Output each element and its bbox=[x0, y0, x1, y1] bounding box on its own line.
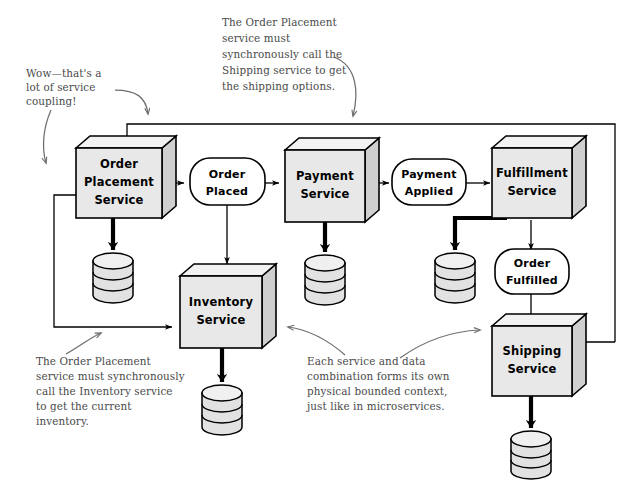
database-order-placement-database[interactable] bbox=[93, 253, 133, 303]
service-label-line2: Service bbox=[196, 313, 245, 327]
service-label-line3: Service bbox=[94, 193, 143, 207]
shipping-note-line-3: synchronously call the bbox=[222, 48, 342, 60]
bounded-context-note-line-1: Each service and data bbox=[307, 355, 426, 367]
write-arrow-fulfillment-db bbox=[455, 218, 507, 250]
service-label-line1: Order bbox=[100, 157, 138, 171]
service-box-inventory-service[interactable]: Inventory Service bbox=[180, 264, 276, 348]
inventory-note-line-1: The Order Placement bbox=[36, 355, 152, 367]
event-node-payment-applied[interactable]: Payment Applied bbox=[392, 159, 466, 205]
database-fulfillment-database[interactable] bbox=[435, 253, 475, 303]
database-shipping-database[interactable] bbox=[511, 431, 551, 479]
event-label-line2: Placed bbox=[206, 185, 248, 198]
service-box-shipping-service[interactable]: Shipping Service bbox=[492, 314, 586, 396]
coupling-note-line-2: lot of service bbox=[26, 81, 95, 93]
coupling-note-arrow-secondary bbox=[115, 90, 148, 114]
event-label-line2: Applied bbox=[405, 185, 454, 198]
shipping-sync-note: The Order Placement service must synchro… bbox=[222, 16, 347, 92]
inventory-note-line-3: call the Inventory service bbox=[36, 385, 173, 397]
inventory-note-arrow bbox=[66, 333, 101, 354]
service-box-order-placement-service[interactable]: Order Placement Service bbox=[76, 136, 176, 218]
service-label-line1: Payment bbox=[296, 169, 354, 183]
coupling-note-arrow bbox=[44, 110, 51, 163]
event-label-line1: Order bbox=[209, 168, 246, 181]
shipping-note-line-1: The Order Placement bbox=[222, 16, 338, 28]
service-label-line2: Service bbox=[507, 184, 556, 198]
service-box-payment-service[interactable]: Payment Service bbox=[285, 138, 379, 222]
event-label-line1: Order bbox=[514, 257, 551, 270]
event-label-line1: Payment bbox=[401, 168, 456, 181]
bounded-context-note-line-3: physical bounded context, bbox=[307, 385, 448, 397]
service-label-line2: Service bbox=[300, 187, 349, 201]
database-inventory-database[interactable] bbox=[202, 385, 242, 435]
service-label-line2: Placement bbox=[84, 175, 154, 189]
inventory-note-line-5: inventory. bbox=[36, 415, 89, 427]
event-label-line2: Fulfilled bbox=[506, 274, 558, 287]
service-box-fulfillment-service[interactable]: Fulfillment Service bbox=[492, 136, 586, 218]
bounded-context-note-arrow-right bbox=[400, 330, 480, 358]
bounded-context-note-line-4: just like in microservices. bbox=[306, 400, 445, 412]
diagram-canvas: Order Placement Service Payment Service … bbox=[0, 0, 641, 495]
service-label-line1: Inventory bbox=[189, 295, 254, 309]
inventory-note-line-4: to get the current bbox=[36, 400, 132, 412]
service-coupling-diagram: Order Placement Service Payment Service … bbox=[0, 0, 641, 495]
inventory-note-line-2: service must synchronously bbox=[36, 370, 185, 382]
event-node-order-fulfilled[interactable]: Order Fulfilled bbox=[495, 249, 569, 294]
coupling-note-line-1: Wow—that's a bbox=[26, 67, 102, 79]
coupling-note-line-3: coupling! bbox=[26, 95, 76, 107]
coupling-note: Wow—that's a lot of service coupling! bbox=[26, 67, 102, 107]
inventory-sync-note: The Order Placement service must synchro… bbox=[36, 355, 185, 427]
service-label-line1: Fulfillment bbox=[496, 166, 568, 180]
event-node-order-placed[interactable]: Order Placed bbox=[190, 158, 265, 205]
service-label-line1: Shipping bbox=[503, 344, 562, 358]
service-label-line2: Service bbox=[507, 362, 556, 376]
database-payment-database[interactable] bbox=[305, 255, 345, 305]
shipping-note-line-2: service must bbox=[222, 32, 291, 44]
shipping-note-line-4: Shipping service to get bbox=[222, 64, 347, 76]
bounded-context-note-arrow-left bbox=[288, 327, 345, 355]
bounded-context-note-line-2: combination forms its own bbox=[307, 370, 450, 382]
shipping-note-line-5: the shipping options. bbox=[222, 80, 335, 92]
bounded-context-note: Each service and data combination forms … bbox=[306, 355, 450, 412]
